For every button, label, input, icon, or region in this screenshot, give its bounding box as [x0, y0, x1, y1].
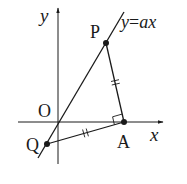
segment-pa: [106, 43, 124, 122]
geometry-diagram: y x O P A Q y=ax: [0, 0, 187, 184]
line-y-equals-ax: [38, 12, 124, 158]
y-axis-label: y: [38, 5, 49, 26]
point-a-label: A: [117, 132, 130, 152]
point-a: [121, 119, 127, 125]
point-q: [44, 141, 50, 147]
x-axis-label: x: [149, 124, 159, 145]
point-p: [103, 40, 109, 46]
point-q-label: Q: [26, 135, 39, 155]
point-p-label: P: [90, 22, 100, 42]
equation-equals: =: [129, 12, 139, 32]
equation-lhs: y: [119, 12, 129, 32]
equation-rhs: ax: [139, 12, 156, 32]
origin-label: O: [38, 101, 51, 121]
segment-qa: [47, 122, 124, 144]
line-equation-label: y=ax: [119, 12, 156, 32]
